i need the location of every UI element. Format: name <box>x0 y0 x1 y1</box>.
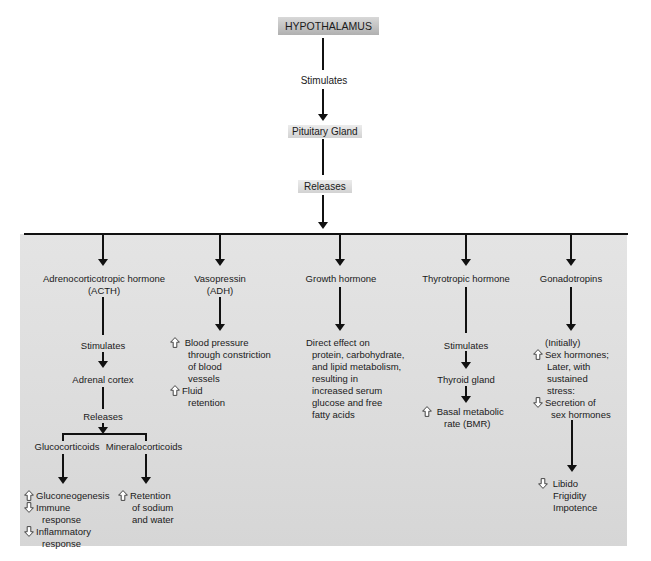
up-arrow-icon <box>170 337 180 348</box>
thyrotropic-title: Thyrotropic hormone <box>414 273 518 285</box>
acth-title: Adrenocorticotropic hormone (ACTH) <box>30 273 178 297</box>
connector-line <box>322 38 324 70</box>
arrow-down-icon <box>571 420 573 470</box>
down-arrow-icon <box>24 502 34 513</box>
hypothalamus-label: HYPOTHALAMUS <box>285 20 372 32</box>
sub-branch-bar <box>62 433 147 435</box>
arrow-down-icon <box>465 234 467 264</box>
gonadotropins-title: Gonadotropins <box>530 273 612 285</box>
arrow-down-icon <box>570 234 572 264</box>
arrow-down-icon <box>465 386 467 401</box>
thyrotropic-effects: Basal metabolic rate (BMR) <box>422 406 504 430</box>
effect-item: Basal metabolic <box>422 406 504 418</box>
connector-line <box>145 433 147 441</box>
effect-item: Inflammatory <box>24 526 109 538</box>
gonadotropins-final-effects: Libido Frigidity Impotence <box>538 478 597 514</box>
adrenal-cortex-label: Adrenal cortex <box>60 374 146 386</box>
connector-line <box>102 387 104 409</box>
arrow-down-icon <box>102 234 104 264</box>
connector-line <box>465 287 467 333</box>
arrow-down-icon <box>339 287 341 329</box>
down-arrow-icon <box>24 526 34 537</box>
vasopressin-title: Vasopressin (ADH) <box>180 273 260 297</box>
connector-line <box>102 297 104 335</box>
vasopressin-effects: Blood pressure through constriction of b… <box>170 337 271 409</box>
down-arrow-icon <box>533 397 543 408</box>
connector-line <box>322 139 324 175</box>
effect-item: Libido <box>538 478 597 490</box>
arrow-down-icon <box>102 423 104 432</box>
releases-label: Releases <box>74 411 132 423</box>
up-arrow-icon <box>118 490 128 501</box>
effect-item: Sex hormones; <box>533 349 611 361</box>
up-arrow-icon <box>422 406 432 417</box>
glucocorticoids-label: Glucocorticoids <box>32 441 102 453</box>
arrow-down-icon <box>219 234 221 264</box>
releases-label: Releases <box>304 181 346 192</box>
arrow-down-icon <box>62 454 64 482</box>
stimulates-label: Stimulates <box>70 340 136 352</box>
arrow-down-icon <box>339 234 341 264</box>
arrow-down-icon <box>219 297 221 329</box>
gonadotropins-effects: (Initially) Sex hormones; Later, with su… <box>533 337 611 421</box>
arrow-down-icon <box>465 351 467 367</box>
branch-bar <box>24 233 628 235</box>
up-arrow-icon <box>170 385 180 396</box>
growth-hormone-title: Growth hormone <box>296 273 386 285</box>
mineralocorticoid-effects: Retention of sodium and water <box>118 490 174 526</box>
effect-item: Fluid <box>170 385 271 397</box>
down-arrow-icon <box>538 478 548 489</box>
stimulates-label: Stimulates <box>296 75 352 87</box>
arrow-down-icon <box>145 454 147 482</box>
arrow-down-icon <box>322 89 324 119</box>
effect-item: Immune <box>24 502 109 514</box>
effect-item: Secretion of <box>533 397 611 409</box>
connector-line <box>62 433 64 441</box>
effect-item: Gluconeogenesis <box>24 490 109 502</box>
effect-item: Blood pressure <box>170 337 271 349</box>
glucocorticoid-effects: Gluconeogenesis Immune response Inflamma… <box>24 490 109 550</box>
up-arrow-icon <box>24 490 34 501</box>
thyroid-gland-label: Thyroid gland <box>430 374 502 386</box>
hypothalamus-box: HYPOTHALAMUS <box>278 17 379 35</box>
arrow-down-icon <box>322 195 324 227</box>
arrow-down-icon <box>570 287 572 329</box>
arrow-down-icon <box>102 352 104 366</box>
growth-hormone-effects: Direct effect on protein, carbohydrate, … <box>306 337 404 421</box>
pituitary-label: Pituitary Gland <box>292 126 358 137</box>
up-arrow-icon <box>533 349 543 360</box>
pituitary-box: Pituitary Gland <box>288 125 362 138</box>
mineralocorticoids-label: Mineralocorticoids <box>104 441 184 453</box>
effect-item: Retention <box>118 490 174 502</box>
releases-box: Releases <box>298 180 352 193</box>
